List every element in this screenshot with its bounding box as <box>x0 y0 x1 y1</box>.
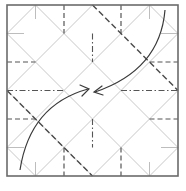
crease-pattern-diagram <box>0 0 186 191</box>
